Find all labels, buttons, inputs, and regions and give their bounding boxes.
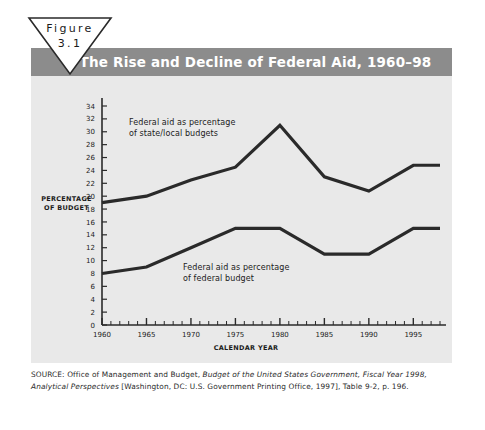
svg-text:24: 24 [86, 167, 95, 175]
svg-text:16: 16 [86, 219, 95, 227]
svg-text:1975: 1975 [227, 331, 245, 339]
svg-text:14: 14 [86, 231, 95, 239]
svg-text:10: 10 [86, 257, 95, 265]
svg-text:32: 32 [86, 115, 95, 123]
chart-series [102, 125, 440, 273]
svg-text:1980: 1980 [271, 331, 289, 339]
figure-label: Figure [27, 22, 113, 36]
svg-text:26: 26 [86, 154, 95, 162]
svg-text:8: 8 [91, 270, 95, 278]
svg-text:22: 22 [86, 180, 95, 188]
chart-panel: 0246810121416182022242628303234196019651… [31, 76, 452, 363]
annot-federal-line1: Federal aid as percentage [183, 262, 333, 273]
figure-marker: Figure 3.1 [27, 16, 113, 76]
series-annotation-state-local: Federal aid as percentage of state/local… [129, 117, 279, 139]
source-note: SOURCE: Office of Management and Budget,… [31, 369, 461, 392]
x-axis-title: CALENDAR YEAR [171, 344, 321, 353]
annot-federal-line2: of federal budget [183, 273, 333, 284]
svg-text:1965: 1965 [138, 331, 156, 339]
svg-text:2: 2 [91, 309, 95, 317]
annot-state-line1: Federal aid as percentage [129, 117, 279, 128]
figure-number: 3.1 [27, 37, 113, 51]
svg-text:6: 6 [91, 283, 96, 291]
figure-page: Figure 3.1 The Rise and Decline of Feder… [0, 0, 485, 430]
series-annotation-federal: Federal aid as percentage of federal bud… [183, 262, 333, 284]
source-prefix: SOURCE: Office of Management and Budget, [31, 370, 203, 379]
svg-text:28: 28 [86, 141, 95, 149]
svg-text:1990: 1990 [360, 331, 378, 339]
source-suffix: [Washington, DC: U.S. Government Printin… [119, 382, 409, 391]
svg-text:1970: 1970 [182, 331, 200, 339]
svg-text:30: 30 [86, 128, 95, 136]
svg-text:12: 12 [86, 244, 95, 252]
svg-text:34: 34 [86, 103, 95, 111]
svg-text:1995: 1995 [404, 331, 422, 339]
annot-state-line2: of state/local budgets [129, 128, 279, 139]
svg-text:1985: 1985 [315, 331, 333, 339]
svg-text:0: 0 [91, 322, 95, 330]
svg-text:4: 4 [91, 296, 96, 304]
svg-text:1960: 1960 [93, 331, 111, 339]
y-axis-title: PERCENTAGE OF BUDGET [35, 195, 98, 213]
